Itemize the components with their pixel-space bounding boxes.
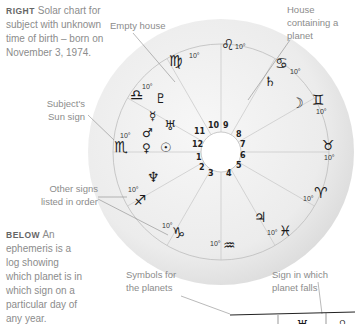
scorpio-icon: ♏ (114, 138, 128, 156)
sun-icon: ☉ (160, 140, 172, 155)
svg-text:♌: ♌ (335, 317, 348, 324)
label-sun-sign: Subject's Sun sign (30, 97, 85, 123)
moon-icon: ☽ (291, 95, 304, 111)
leo-icon: ♌ (221, 36, 234, 54)
mars-icon: ♂ (142, 126, 153, 140)
cancer-icon: ♋ (275, 55, 288, 71)
svg-text:10°: 10° (189, 52, 200, 59)
aries-icon: ♈ (314, 184, 327, 202)
label-symbols-planets: Symbols for the planets (126, 268, 176, 294)
label-house-containing-planet: House containing a planet (287, 3, 338, 42)
uranus-icon: ♅ (164, 118, 176, 133)
svg-text:10°: 10° (316, 108, 327, 115)
svg-text:10: 10 (208, 121, 220, 130)
sagittarius-icon: ♐ (134, 192, 147, 208)
taurus-icon: ♉ (322, 137, 335, 153)
neptune-icon: ♆ (147, 169, 160, 185)
svg-text:3: 3 (208, 169, 214, 178)
svg-text:♅: ♅ (296, 317, 309, 324)
svg-text:10°: 10° (303, 195, 314, 202)
jupiter-icon: ♃ (254, 209, 267, 225)
virgo-icon: ♍ (169, 52, 182, 70)
svg-text:4: 4 (226, 169, 232, 178)
pluto-icon: ♇ (155, 91, 167, 106)
svg-text:12: 12 (192, 140, 203, 149)
svg-text:10°: 10° (128, 186, 139, 193)
svg-text:9: 9 (223, 121, 229, 130)
svg-text:10°: 10° (210, 240, 221, 247)
svg-text:10°: 10° (142, 83, 153, 90)
aquarius-icon: ♒ (223, 237, 236, 253)
gemini-icon: ♊ (312, 92, 325, 108)
svg-text:8: 8 (236, 130, 242, 139)
svg-text:10°: 10° (324, 154, 335, 161)
ephemeris-table-preview: ♅ ♌ (230, 312, 355, 324)
saturn-icon: ♄ (264, 74, 276, 89)
label-empty-house: Empty house (110, 19, 165, 32)
svg-text:10°: 10° (235, 43, 246, 50)
center-hub (201, 132, 241, 172)
mercury-icon: ☿ (149, 109, 156, 123)
svg-text:1: 1 (196, 153, 202, 162)
venus-icon: ♀ (142, 141, 151, 155)
capricorn-icon: ♑ (172, 224, 185, 242)
svg-text:10°: 10° (162, 222, 173, 229)
svg-text:11: 11 (194, 127, 206, 136)
svg-text:10°: 10° (290, 68, 301, 75)
label-sign-planet-falls: Sign in which planet falls (272, 268, 328, 294)
svg-text:6: 6 (240, 151, 246, 160)
svg-text:10°: 10° (120, 132, 131, 139)
svg-text:2: 2 (199, 163, 205, 172)
pisces-icon: ♓ (279, 223, 292, 239)
label-other-signs: Other signs listed in order (20, 182, 98, 208)
svg-text:5: 5 (236, 161, 242, 170)
svg-text:7: 7 (240, 140, 246, 149)
svg-text:10°: 10° (267, 229, 278, 236)
